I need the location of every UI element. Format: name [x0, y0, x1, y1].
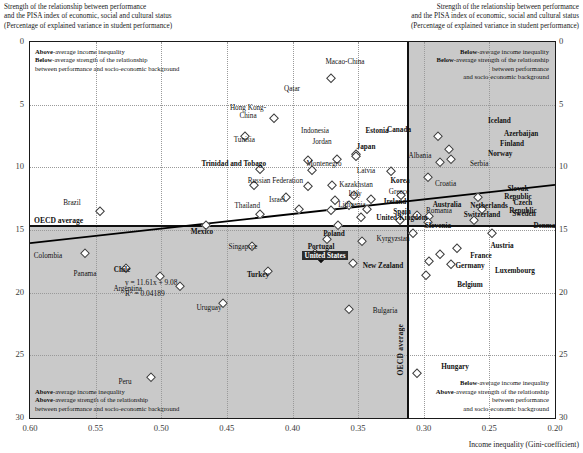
data-point-label: Trinidad and Tobago: [201, 160, 266, 168]
data-point-label: Germany: [455, 262, 484, 270]
data-point-label: Montenegro: [306, 160, 341, 168]
y-axis-title-left: Strength of the relationship between per…: [4, 3, 172, 31]
chart-root: Strength of the relationship between per…: [0, 0, 583, 453]
data-point-label: Kyrgyzstan: [376, 235, 409, 243]
data-point-label: Chile: [114, 266, 130, 274]
x-tick-0.55: 0.55: [76, 423, 116, 433]
data-point-label: Panama: [74, 270, 97, 278]
plot-area: Above-average income inequalityBelow-ave…: [29, 41, 556, 419]
y-tick-right-15: 15: [559, 224, 581, 234]
data-point-label: Luxembourg: [495, 267, 535, 275]
data-point-label: Singapore: [228, 243, 257, 251]
x-axis-title: Income inequality (Gini-coefficient): [469, 440, 579, 449]
data-point-label: Portugal: [308, 243, 335, 251]
data-point-label: Jordan: [312, 138, 331, 146]
x-tick-0.60: 0.60: [10, 423, 50, 433]
y-tick-left-10: 10: [2, 161, 24, 171]
data-point-label: Slovenia: [425, 222, 451, 230]
y-tick-left-0: 0: [2, 36, 24, 46]
data-point-label: Mexico: [191, 228, 213, 236]
data-point-label: Croatia: [435, 180, 456, 188]
data-point-label: New Zealand: [363, 262, 404, 270]
data-point-label: Denmark: [533, 222, 555, 230]
data-point-label: Colombia: [34, 252, 62, 260]
data-point-label: Russian Federation: [248, 177, 303, 185]
y-tick-left-30: 30: [2, 412, 24, 422]
data-point-label: Sweden: [512, 210, 536, 218]
data-point-label: Tunisia: [234, 136, 255, 144]
data-point-label: Brazil: [63, 199, 81, 207]
data-point-label: France: [470, 252, 492, 260]
data-point-label: Peru: [118, 378, 131, 386]
data-point-label: Ireland: [384, 198, 407, 206]
data-point-label: Switzerland: [464, 211, 501, 219]
data-point-label: Korea: [390, 177, 409, 185]
data-point-label: Austria: [490, 242, 513, 250]
data-point-label: Japan: [357, 143, 376, 151]
data-point-label: Indonesia: [301, 127, 329, 135]
data-point-label: Macao-China: [325, 58, 364, 66]
data-point-label: Belgium: [457, 281, 483, 289]
x-tick-0.20: 0.20: [535, 423, 575, 433]
y-tick-right-25: 25: [559, 349, 581, 359]
y-tick-left-5: 5: [2, 99, 24, 109]
data-point-label: Azerbaijan: [504, 130, 538, 138]
data-point-label: Estonia: [365, 127, 388, 135]
y-tick-right-20: 20: [559, 287, 581, 297]
data-point-label: Hungary: [441, 363, 469, 371]
data-point-label: Italy: [348, 190, 361, 198]
data-point-label: United Kingdom: [376, 214, 427, 222]
data-point-label: Canada: [387, 126, 411, 134]
y-tick-left-15: 15: [2, 224, 24, 234]
data-point-label: Poland: [323, 230, 345, 238]
data-point-label: Norway: [488, 150, 512, 158]
data-point-label: Argentina: [113, 285, 142, 293]
data-point-label: Finland: [500, 140, 524, 148]
data-point-label: Serbia: [470, 160, 488, 168]
data-point-label: Israel: [269, 196, 285, 204]
data-point-label: Bulgaria: [373, 307, 398, 315]
data-point-label: Australia: [433, 201, 462, 209]
x-tick-0.35: 0.35: [338, 423, 378, 433]
y-tick-right-30: 30: [559, 412, 581, 422]
x-tick-0.50: 0.50: [141, 423, 181, 433]
data-point-label: Uruguay: [196, 304, 221, 312]
data-point-label: Albania: [409, 152, 432, 160]
y-tick-right-0: 0: [559, 36, 581, 46]
data-point-label: Netherlands: [470, 202, 508, 210]
plot-inner: Above-average income inequalityBelow-ave…: [30, 42, 555, 418]
y-tick-left-20: 20: [2, 287, 24, 297]
y-tick-right-5: 5: [559, 99, 581, 109]
data-point-label: Latvia: [357, 167, 375, 175]
data-point-label: Greece: [389, 188, 409, 196]
data-point-label: Iceland: [488, 117, 511, 125]
x-tick-0.30: 0.30: [404, 423, 444, 433]
x-tick-0.40: 0.40: [273, 423, 313, 433]
data-point-label: United States: [302, 251, 348, 260]
trendline: [30, 42, 555, 418]
data-point-label: Qatar: [284, 85, 300, 93]
x-tick-0.25: 0.25: [469, 423, 509, 433]
data-point-label: Kazakhstan: [339, 181, 373, 189]
data-point-label: Turkey: [247, 271, 269, 279]
y-axis-title-right: Strength of the relationship between per…: [411, 3, 579, 31]
data-point-label: Hong Kong- China: [230, 104, 266, 120]
y-tick-right-10: 10: [559, 161, 581, 171]
data-point-label: Thailand: [234, 202, 260, 210]
y-tick-left-25: 25: [2, 349, 24, 359]
x-tick-0.45: 0.45: [207, 423, 247, 433]
